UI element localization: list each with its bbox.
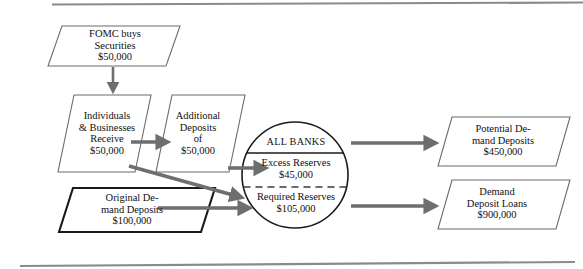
- node-potential-demand-deposits: [438, 117, 570, 166]
- node-original-demand-deposits: [59, 188, 215, 232]
- diagram-canvas: FOMC buys Securities $50,000 Individuals…: [0, 0, 583, 269]
- node-fomc-buys-securities: [48, 26, 180, 66]
- node-all-banks-circle: [242, 122, 348, 228]
- node-additional-deposits: [156, 95, 245, 172]
- node-individuals-businesses: [58, 95, 151, 172]
- node-demand-deposit-loans: [438, 180, 570, 229]
- bottom-rule: [20, 262, 575, 266]
- top-rule: [52, 3, 583, 5]
- flowchart-svg: [0, 0, 583, 269]
